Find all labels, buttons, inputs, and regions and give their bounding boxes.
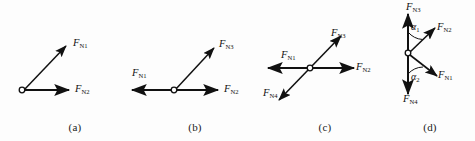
panel-d: FN3 FN2 FN1 FN4 α1 α2 (d) [385, 0, 475, 141]
vector-label-d-FN2: FN2 [437, 22, 452, 33]
panel-caption-c: (c) [255, 121, 395, 133]
vector-label-c-FN1: FN1 [281, 50, 296, 61]
vector-label-b-FN2: FN2 [224, 84, 239, 95]
vector-label-a-FN2: FN2 [75, 84, 90, 95]
vector-b-FN3 [175, 48, 214, 90]
vector-label-c-FN4: FN4 [263, 88, 278, 99]
panel-caption-d: (d) [385, 121, 475, 133]
panel-b: FN1 FN3 FN2 (b) [120, 0, 270, 141]
panel-caption-b: (b) [120, 121, 270, 133]
origin-marker-b [171, 87, 177, 93]
vector-a-FN1 [24, 46, 66, 90]
vector-label-b-FN1: FN1 [132, 68, 147, 79]
vector-c-FN4 [279, 68, 310, 100]
vector-label-d-FN4: FN4 [403, 94, 418, 105]
angle-label-alpha2: α2 [411, 72, 420, 82]
vector-label-d-FN3: FN3 [406, 2, 421, 13]
origin-marker-a [19, 87, 25, 93]
vector-label-c-FN3: FN3 [331, 28, 346, 39]
angle-label-alpha1: α1 [411, 22, 420, 32]
force-vector-figure: FN1 FN2 (a) FN1 [0, 0, 475, 141]
vector-label-b-FN3: FN3 [219, 39, 234, 50]
vector-c-FN3 [310, 36, 341, 68]
vector-label-d-FN1: FN1 [438, 70, 453, 81]
panel-c: FN3 FN1 FN2 FN4 (c) [255, 0, 395, 141]
origin-marker-c [307, 65, 313, 71]
vector-label-c-FN2: FN2 [356, 62, 371, 73]
origin-marker-d [405, 50, 411, 56]
angle-arc-alpha1 [408, 32, 423, 40]
vector-label-a-FN1: FN1 [73, 38, 88, 49]
